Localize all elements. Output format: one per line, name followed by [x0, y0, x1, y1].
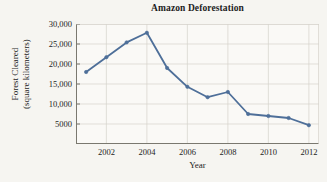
x-tick-label: 2002 [89, 147, 123, 157]
x-axis-tick-labels: 200220042006200820102012 [76, 147, 319, 159]
y-tick-label: 30,000 [32, 20, 72, 29]
line-chart-svg [76, 24, 319, 144]
x-axis-title: Year [76, 160, 319, 170]
data-point-markers [84, 31, 310, 127]
grid-lines [76, 24, 319, 144]
x-tick-label: 2004 [130, 147, 164, 157]
plot-area [76, 24, 319, 144]
y-axis-tick-labels: 500010,00015,00020,00025,00030,000 [28, 24, 72, 144]
x-tick-label: 2012 [292, 147, 326, 157]
y-tick-label: 20,000 [32, 60, 72, 69]
x-tick-label: 2008 [211, 147, 245, 157]
data-series-line [86, 33, 309, 125]
chart-title: Amazon Deforestation [76, 3, 319, 13]
y-tick-label: 25,000 [32, 40, 72, 49]
y-tick-label: 5000 [32, 120, 72, 129]
y-tick-label: 15,000 [32, 80, 72, 89]
x-tick-label: 2010 [251, 147, 285, 157]
x-tick-label: 2006 [170, 147, 204, 157]
y-tick-label: 10,000 [32, 100, 72, 109]
y-axis-title-line1: Forest Cleared [10, 6, 21, 142]
chart-figure: Amazon Deforestation Forest Cleared (squ… [0, 0, 327, 182]
